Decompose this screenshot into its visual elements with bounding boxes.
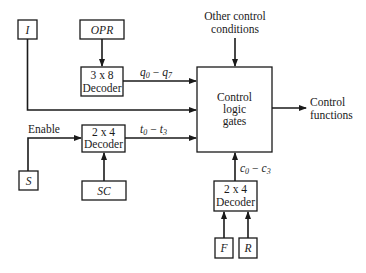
control-logic-block: Control logic gates: [197, 67, 272, 152]
q-signal-label: q0−q7: [140, 66, 173, 80]
control-functions-line1: Control: [310, 96, 345, 108]
decoder-3x8: 3 x 8 Decoder: [81, 67, 123, 96]
c-signal-label: c0−c3: [240, 162, 271, 176]
decoder-2x4-sc-label: Decoder: [84, 138, 123, 150]
enable-arrow: [28, 138, 81, 171]
decoder-2x4-sc-size: 2 x 4: [92, 126, 115, 138]
input-sc-label: SC: [97, 185, 111, 197]
input-i: I: [18, 20, 37, 39]
decoder-2x4-sc: 2 x 4 Decoder: [82, 125, 125, 152]
t-signal-label: t0−t3: [140, 123, 167, 137]
control-logic-line3: gates: [223, 115, 247, 128]
decoder-2x4-fr-label: Decoder: [216, 196, 255, 208]
input-r-label: R: [243, 242, 251, 254]
input-opr-label: OPR: [91, 24, 113, 36]
decoder-2x4-fr-size: 2 x 4: [224, 183, 247, 195]
input-r: R: [239, 238, 257, 258]
other-conditions-line1: Other control: [204, 10, 266, 22]
other-conditions-line2: conditions: [211, 23, 259, 35]
decoder-3x8-size: 3 x 8: [91, 69, 114, 81]
input-f: F: [215, 238, 233, 258]
input-opr: OPR: [80, 20, 124, 39]
input-sc: SC: [82, 181, 126, 200]
control-functions-line2: functions: [310, 109, 353, 121]
input-f-label: F: [219, 242, 228, 254]
input-s-label: S: [26, 175, 32, 187]
input-s: S: [19, 171, 38, 190]
enable-label: Enable: [28, 123, 60, 135]
control-logic-line1: Control: [217, 91, 252, 103]
decoder-2x4-fr: 2 x 4 Decoder: [214, 181, 257, 211]
decoder-3x8-label: Decoder: [83, 82, 122, 94]
control-unit-diagram: I OPR 3 x 8 Decoder q0−q7 Other control …: [0, 0, 366, 273]
